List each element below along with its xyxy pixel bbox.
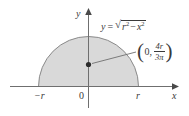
centroid-point-marker: [86, 62, 91, 67]
close-paren: ): [166, 43, 173, 61]
y-axis-label: y: [76, 9, 80, 19]
curve-equation-label: y= √ r2−x2: [101, 19, 146, 32]
radical-sign-icon: √: [115, 19, 121, 30]
semicircle-centroid-figure: y= √ r2−x2 ( 0, 4r 3π ) y x −r 0 r: [0, 0, 189, 116]
y-axis-arrowhead-icon: [85, 8, 92, 15]
centroid-coordinate-label: ( 0, 4r 3π ): [137, 42, 173, 62]
radicand: r2−x2: [121, 20, 146, 32]
x-tick-label-origin: 0: [79, 91, 84, 101]
equation-radical: √ r2−x2: [115, 19, 146, 32]
x-tick-label-negative-r: −r: [34, 91, 45, 101]
equation-equals: =: [105, 21, 115, 32]
open-paren: (: [137, 43, 144, 61]
centroid-y-fraction: 4r 3π: [153, 42, 166, 62]
radicand-minus: −: [129, 21, 137, 32]
fraction-numerator: 4r: [154, 42, 164, 51]
x-tick-label-r: r: [136, 91, 140, 101]
x-axis-arrowhead-icon: [172, 83, 179, 90]
centroid-x-value: 0,: [144, 47, 153, 57]
radicand-x-exponent: 2: [141, 20, 144, 27]
x-axis-label: x: [172, 91, 176, 101]
fraction-denominator: 3π: [154, 53, 165, 62]
